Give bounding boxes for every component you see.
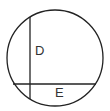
label-e: E <box>55 85 64 100</box>
label-d: D <box>35 43 44 58</box>
circle-chord-diagram: D E <box>0 0 110 111</box>
